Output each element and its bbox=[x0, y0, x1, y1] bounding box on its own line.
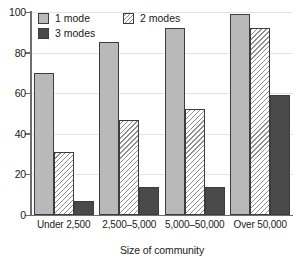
legend-label-3-modes: 3 modes bbox=[55, 28, 95, 39]
bar-3modes-g1 bbox=[74, 201, 94, 215]
bar-group-2500-5000 bbox=[97, 12, 163, 215]
y-tick-label-80: 80 bbox=[2, 48, 26, 58]
x-tick-label-under-2500: Under 2,500 bbox=[31, 219, 97, 231]
y-tick-label-40: 40 bbox=[2, 129, 26, 139]
bar-3modes-g2 bbox=[139, 187, 159, 215]
y-axis-ticks: 100 80 60 40 20 0 bbox=[0, 0, 26, 263]
y-tick-label-0: 0 bbox=[2, 210, 26, 220]
bar-2modes-g1 bbox=[54, 152, 74, 215]
bar-2modes-g3 bbox=[185, 109, 205, 215]
bar-1mode-g4 bbox=[230, 14, 250, 215]
legend-label-1-mode: 1 mode bbox=[55, 13, 90, 24]
legend-label-2-modes: 2 modes bbox=[140, 13, 180, 24]
bar-1mode-g1 bbox=[34, 73, 54, 215]
x-axis-labels: Under 2,500 2,500–5,000 5,000–50,000 Ove… bbox=[31, 219, 293, 231]
x-tick-label-2500-5000: 2,500–5,000 bbox=[97, 219, 163, 231]
legend-entry-2-modes: 2 modes bbox=[123, 13, 188, 24]
chart-legend: 1 mode 2 modes 3 modes bbox=[38, 13, 188, 39]
bar-groups bbox=[31, 12, 293, 215]
bar-3modes-g3 bbox=[205, 187, 225, 215]
bar-group-over-50000 bbox=[228, 12, 294, 215]
y-tick-label-20: 20 bbox=[2, 169, 26, 179]
bar-1mode-g2 bbox=[99, 42, 119, 215]
legend-swatch-1-mode bbox=[38, 13, 49, 24]
bar-3modes-g4 bbox=[270, 95, 290, 215]
bar-2modes-g2 bbox=[119, 120, 139, 215]
y-tick-label-60: 60 bbox=[2, 88, 26, 98]
legend-swatch-2-modes bbox=[123, 13, 134, 24]
legend-swatch-3-modes bbox=[38, 28, 49, 39]
legend-entry-3-modes: 3 modes bbox=[38, 28, 103, 39]
bar-2modes-g4 bbox=[250, 28, 270, 215]
bar-1mode-g3 bbox=[165, 28, 185, 215]
legend-entry-1-mode: 1 mode bbox=[38, 13, 103, 24]
x-tick-label-over-50000: Over 50,000 bbox=[228, 219, 294, 231]
bar-group-5000-50000 bbox=[162, 12, 228, 215]
x-axis-title: Size of community bbox=[31, 244, 293, 256]
y-tick-label-100: 100 bbox=[2, 7, 26, 17]
x-tick-label-5000-50000: 5,000–50,000 bbox=[162, 219, 228, 231]
bar-group-under-2500 bbox=[31, 12, 97, 215]
bar-chart: 100 80 60 40 20 0 bbox=[0, 0, 301, 263]
